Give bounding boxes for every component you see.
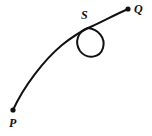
point-label-q: Q — [134, 3, 143, 15]
curve-group — [13, 9, 128, 110]
curve-diagram-svg — [0, 0, 152, 136]
endpoint-dot-q — [125, 6, 130, 11]
point-label-p: P — [9, 117, 16, 129]
endpoint-dot-p — [10, 107, 15, 112]
curve-segment-s-to-q — [88, 9, 128, 28]
figure-canvas: P S Q — [0, 0, 152, 136]
endpoint-markers — [10, 6, 130, 112]
point-label-s: S — [81, 9, 88, 21]
curve-loop-at-s — [77, 28, 103, 57]
